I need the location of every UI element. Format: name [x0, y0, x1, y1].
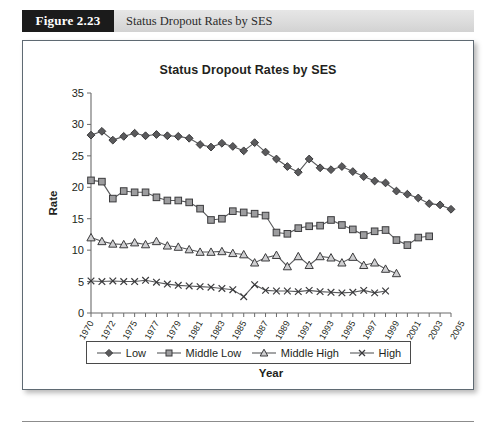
legend-marker-triangle-icon: [251, 346, 277, 360]
x-tick-label: 1999: [383, 319, 402, 341]
legend-item-low[interactable]: Low: [96, 346, 146, 360]
marker-diamond: [105, 349, 112, 356]
marker-diamond: [131, 129, 139, 137]
marker-diamond: [338, 163, 346, 171]
marker-square: [99, 178, 106, 185]
marker-diamond: [185, 134, 193, 142]
marker-square: [142, 189, 149, 196]
marker-square: [88, 177, 95, 184]
marker-triangle: [294, 252, 302, 259]
marker-diamond: [153, 131, 161, 139]
marker-square: [262, 212, 269, 219]
y-tick-label: 0: [78, 307, 84, 319]
marker-diamond: [229, 143, 237, 151]
y-axis-title: Rate: [47, 191, 59, 216]
marker-triangle: [338, 259, 346, 266]
figure-header: Figure 2.23 Status Dropout Rates by SES: [22, 10, 474, 32]
marker-diamond: [163, 132, 171, 140]
chart-legend: LowMiddle LowMiddle HighHigh: [86, 341, 411, 364]
marker-square: [317, 222, 324, 229]
legend-item-high[interactable]: High: [349, 346, 402, 360]
marker-diamond: [174, 132, 182, 140]
x-tick-label: 1977: [143, 319, 162, 341]
marker-square: [120, 188, 127, 195]
marker-triangle: [163, 242, 171, 249]
x-tick-label: 1987: [252, 319, 271, 341]
y-tick-label: 10: [72, 244, 84, 256]
marker-diamond: [349, 168, 357, 176]
marker-square: [339, 222, 346, 229]
marker-diamond: [218, 139, 226, 147]
y-tick-label: 35: [72, 87, 84, 99]
marker-diamond: [207, 143, 215, 151]
figure-panel: Status Dropout Rates by SES 051015202530…: [22, 40, 474, 390]
marker-square: [219, 215, 226, 222]
marker-triangle: [392, 269, 400, 276]
marker-diamond: [360, 173, 368, 181]
marker-diamond: [142, 132, 150, 140]
chart-plot-area: 05101520253035Rate1970197219751977197919…: [23, 41, 473, 389]
marker-cross: [240, 293, 247, 300]
marker-triangle: [316, 252, 324, 259]
marker-square: [404, 242, 411, 249]
legend-label: Middle Low: [186, 347, 242, 359]
marker-square: [415, 234, 422, 241]
y-tick-label: 5: [78, 276, 84, 288]
y-tick-label: 30: [72, 118, 84, 130]
marker-square: [153, 194, 160, 201]
marker-diamond: [393, 187, 401, 195]
marker-diamond: [87, 131, 95, 139]
y-tick-label: 20: [72, 181, 84, 193]
marker-square: [251, 210, 258, 217]
marker-square: [164, 197, 171, 204]
marker-square: [110, 195, 117, 202]
marker-triangle: [381, 265, 389, 272]
x-tick-label: 1981: [186, 319, 205, 341]
x-tick-label: 2005: [448, 319, 467, 341]
x-tick-label: 1989: [273, 319, 292, 341]
marker-square: [328, 217, 335, 224]
page-divider-rule: [22, 421, 474, 422]
marker-diamond: [240, 147, 248, 155]
legend-item-middle-high[interactable]: Middle High: [251, 346, 339, 360]
x-tick-label: 1975: [121, 319, 140, 341]
x-tick-label: 1972: [99, 319, 118, 341]
marker-square: [426, 233, 433, 240]
x-tick-label: 2003: [426, 319, 445, 341]
marker-diamond: [327, 166, 335, 174]
marker-diamond: [371, 177, 379, 185]
marker-triangle: [251, 259, 259, 266]
legend-item-middle-low[interactable]: Middle Low: [156, 346, 242, 360]
marker-square: [230, 208, 237, 215]
legend-marker-diamond-icon: [96, 346, 122, 360]
marker-triangle: [349, 253, 357, 260]
marker-square: [360, 232, 367, 239]
marker-diamond: [283, 163, 291, 171]
marker-triangle: [371, 259, 379, 266]
figure-caption: Status Dropout Rates by SES: [114, 10, 474, 32]
marker-diamond: [447, 205, 455, 213]
y-tick-label: 15: [72, 213, 84, 225]
marker-square: [208, 217, 215, 224]
marker-square: [295, 225, 302, 232]
marker-diamond: [273, 155, 281, 163]
marker-diamond: [196, 141, 204, 149]
figure-number-tag: Figure 2.23: [22, 10, 114, 32]
marker-triangle: [87, 233, 95, 240]
x-axis-title: Year: [259, 367, 284, 379]
x-tick-label: 1991: [295, 319, 314, 341]
x-tick-label: 1993: [317, 319, 336, 341]
chart-svg: 05101520253035Rate1970197219751977197919…: [23, 41, 473, 389]
legend-label: Low: [126, 347, 146, 359]
legend-label: High: [379, 347, 402, 359]
x-tick-label: 1997: [361, 319, 380, 341]
marker-square: [186, 199, 193, 206]
marker-square: [371, 228, 378, 235]
x-tick-label: 1983: [208, 319, 227, 341]
marker-square: [240, 209, 247, 216]
series-line-middle-low: [91, 180, 429, 245]
marker-square: [284, 231, 291, 238]
marker-square: [382, 227, 389, 234]
marker-cross: [251, 281, 258, 288]
marker-square: [197, 205, 204, 212]
